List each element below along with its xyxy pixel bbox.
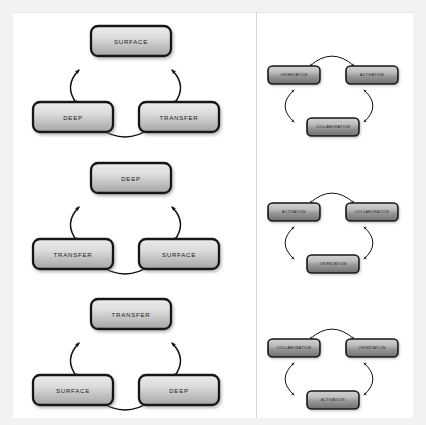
node-right[interactable]: COLLABORATION xyxy=(346,203,398,221)
diagram-right-cycle-1: ORIENTATION ACTIVATION COLLABORATION xyxy=(260,18,410,150)
node-top[interactable]: COLLABORATION xyxy=(307,118,359,136)
node-label: SURFACE xyxy=(114,38,148,45)
node-label: ACTIVATION xyxy=(321,398,345,402)
arrow-left-top xyxy=(285,90,294,122)
arrow-top-left xyxy=(70,70,79,104)
arrow-right-top xyxy=(364,90,373,122)
arrow-left-right xyxy=(310,193,354,203)
node-right[interactable]: ORIENTATION xyxy=(346,339,398,357)
panel-top-rule xyxy=(13,12,413,13)
node-label: ACTIVATION xyxy=(360,73,384,77)
node-label: ORIENTATION xyxy=(319,262,346,266)
arrow-left-right xyxy=(310,329,354,339)
arrow-left-right xyxy=(310,56,354,66)
node-top[interactable]: ACTIVATION xyxy=(307,391,359,409)
node-left[interactable]: TRANSFER xyxy=(33,239,113,269)
node-right[interactable]: ACTIVATION xyxy=(346,66,398,84)
node-top[interactable]: TRANSFER xyxy=(91,299,171,329)
node-label: TRANSFER xyxy=(112,311,151,318)
arrow-right-top xyxy=(364,363,373,395)
node-top[interactable]: ORIENTATION xyxy=(307,255,359,273)
node-label: COLLABORATION xyxy=(316,125,350,129)
node-label: ORIENTATION xyxy=(280,73,307,77)
arrow-top-right xyxy=(172,207,181,241)
node-top[interactable]: SURFACE xyxy=(91,26,171,56)
node-label: ACTIVATION xyxy=(282,210,306,214)
diagram-left-cycle-2: DEEP TRANSFER SURFACE xyxy=(15,155,255,287)
arrow-left-top xyxy=(285,363,294,395)
node-label: SURFACE xyxy=(56,387,90,394)
node-label: TRANSFER xyxy=(54,251,93,258)
arrow-top-left xyxy=(70,207,79,241)
diagram-left-cycle-3: TRANSFER SURFACE DEEP xyxy=(15,291,255,423)
arrow-top-right xyxy=(172,343,181,377)
node-right[interactable]: TRANSFER xyxy=(139,102,219,132)
node-label: SURFACE xyxy=(162,251,196,258)
node-label: DEEP xyxy=(121,175,141,182)
node-label: DEEP xyxy=(63,114,83,121)
node-label: ORIENTATION xyxy=(358,346,385,350)
node-label: COLLABORATION xyxy=(355,210,389,214)
arrow-top-left xyxy=(70,343,79,377)
diagram-right-cycle-3: COLLABORATION ORIENTATION ACTIVATION xyxy=(260,291,410,423)
column-divider xyxy=(256,12,257,418)
node-left[interactable]: ORIENTATION xyxy=(268,66,320,84)
node-label: DEEP xyxy=(169,387,189,394)
figure-panel: SURFACE DEEP TRANSFER ORIENTATION xyxy=(13,12,413,418)
arrow-right-top xyxy=(364,227,373,259)
node-left[interactable]: SURFACE xyxy=(33,375,113,405)
arrow-left-top xyxy=(285,227,294,259)
arrow-top-right xyxy=(172,70,181,104)
node-top[interactable]: DEEP xyxy=(91,163,171,193)
node-right[interactable]: DEEP xyxy=(139,375,219,405)
node-left[interactable]: COLLABORATION xyxy=(268,339,320,357)
node-left[interactable]: ACTIVATION xyxy=(268,203,320,221)
node-label: COLLABORATION xyxy=(277,346,311,350)
node-right[interactable]: SURFACE xyxy=(139,239,219,269)
diagram-right-cycle-2: ACTIVATION COLLABORATION ORIENTATION xyxy=(260,155,410,287)
node-left[interactable]: DEEP xyxy=(33,102,113,132)
diagram-left-cycle-1: SURFACE DEEP TRANSFER xyxy=(15,18,255,150)
node-label: TRANSFER xyxy=(160,114,199,121)
